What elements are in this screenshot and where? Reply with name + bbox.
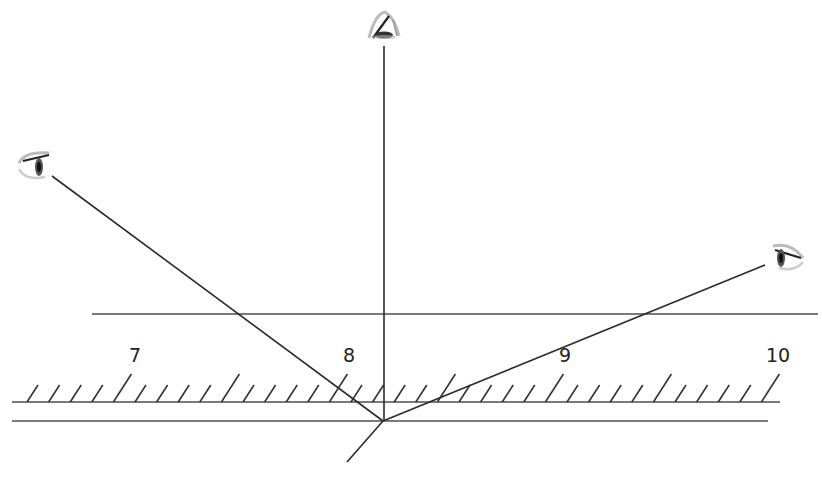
left-sight-line bbox=[52, 176, 383, 421]
scale-label-7: 7 bbox=[129, 344, 141, 366]
scale-label-10: 10 bbox=[766, 344, 790, 366]
left-eye-icon bbox=[19, 153, 49, 178]
scale-label-8: 8 bbox=[343, 344, 355, 366]
diagram-canvas: 7 8 9 10 bbox=[0, 0, 822, 485]
scale-label-9: 9 bbox=[559, 344, 571, 366]
scale-hatch-marks bbox=[27, 374, 779, 402]
right-sight-line bbox=[383, 265, 765, 421]
extension-line bbox=[347, 421, 383, 462]
right-eye-icon bbox=[773, 245, 803, 269]
diagram-svg bbox=[0, 0, 822, 485]
top-eye-icon bbox=[369, 12, 399, 39]
